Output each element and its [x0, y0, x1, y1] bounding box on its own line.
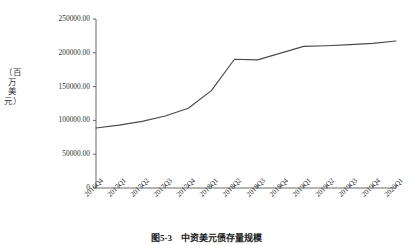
- data-series-line: [96, 41, 396, 128]
- figure-container: （百万美元） 050000.00100000.00150000.00200000…: [0, 0, 413, 245]
- x-axis-tick-marks: [96, 185, 396, 188]
- figure-caption: 图5-3 中资美元债存量规模: [0, 233, 413, 244]
- line-chart-plot: [0, 0, 413, 245]
- y-axis-tick-marks: [93, 19, 96, 188]
